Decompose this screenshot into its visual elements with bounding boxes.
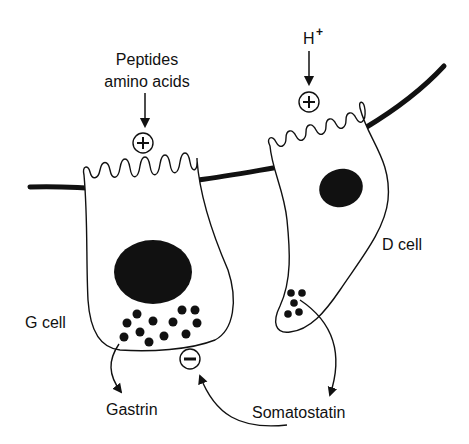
- h-plus-superscript: +: [316, 25, 323, 39]
- d-cell-stimulus-plus-icon: [299, 92, 319, 112]
- h-plus-label: H: [303, 30, 315, 47]
- peptides-label: Peptides: [116, 51, 178, 68]
- d-cell-outline: [269, 102, 389, 332]
- gastrin-label: Gastrin: [106, 401, 158, 418]
- g-cell-stimulus-plus-icon: [133, 133, 153, 153]
- g-cell-nucleus: [114, 240, 192, 304]
- g-cell-label: G cell: [25, 314, 66, 331]
- inhibition-minus-icon: [180, 349, 200, 369]
- gastrin-release-arrow: [111, 344, 121, 392]
- somatostatin-label: Somatostatin: [252, 404, 345, 421]
- gastrin-somatostatin-diagram: Peptides amino acids H + D cell G cell G…: [0, 0, 469, 444]
- d-cell-label: D cell: [382, 236, 422, 253]
- amino-acids-label: amino acids: [104, 73, 189, 90]
